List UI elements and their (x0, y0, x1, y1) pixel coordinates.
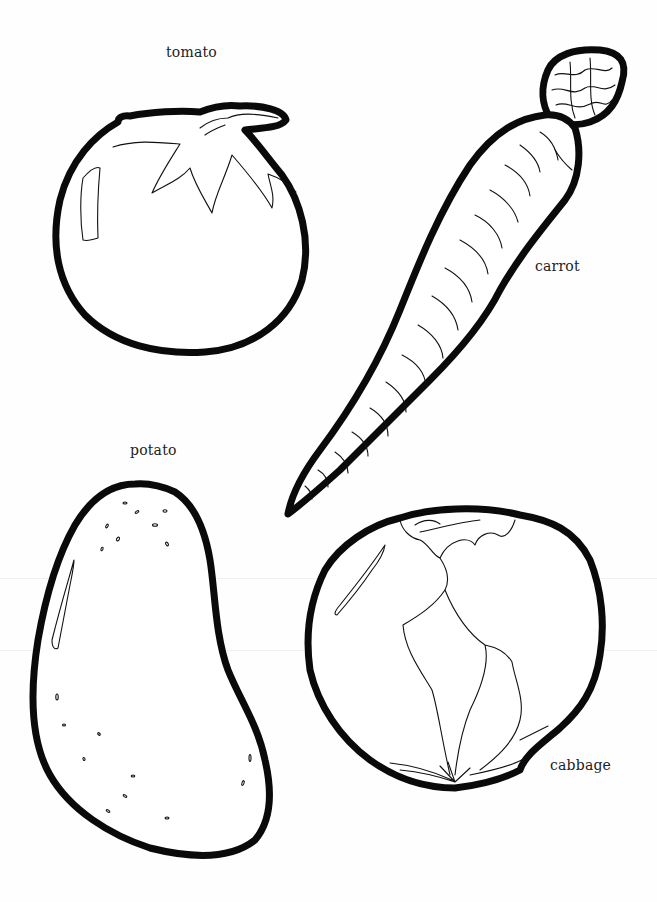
potato-drawing (33, 484, 269, 856)
carrot-outline (288, 115, 579, 514)
potato-outline (33, 484, 269, 856)
carrot-label: carrot (535, 258, 580, 274)
coloring-sheet: tomato carrot potato cabbage (0, 0, 657, 902)
tomato-drawing (56, 105, 306, 352)
cabbage-outline (308, 509, 602, 788)
tomato-outline (56, 105, 306, 352)
cabbage-drawing (308, 509, 602, 788)
tomato-label: tomato (166, 44, 217, 60)
potato-label: potato (130, 442, 177, 458)
carrot-drawing (288, 50, 624, 514)
cabbage-label: cabbage (550, 757, 611, 773)
